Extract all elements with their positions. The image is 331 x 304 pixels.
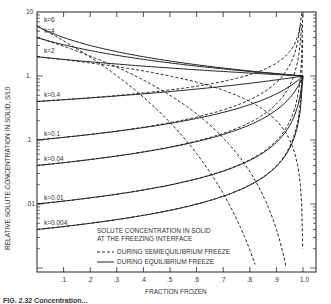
equilibrium-curve bbox=[37, 76, 303, 102]
chart: .1.2.3.4.5.6.7.8.91.0101..1.01 k=6k=4k=2… bbox=[0, 0, 331, 304]
x-tick-label: .3 bbox=[114, 276, 120, 283]
equilibrium-curve bbox=[37, 76, 303, 166]
svg-text:DURING SEMIEQUILIBRIUM FREEZE: DURING SEMIEQUILIBRIUM FREEZE bbox=[117, 248, 231, 256]
legend: SOLUTE CONCENTRATION IN SOLID AT THE FRE… bbox=[97, 227, 231, 266]
x-tick-label: .6 bbox=[194, 276, 200, 283]
series-label: k=0.01 bbox=[44, 194, 64, 201]
x-tick-label: .2 bbox=[87, 276, 93, 283]
x-tick-label: .5 bbox=[167, 276, 173, 283]
y-tick-label: .1 bbox=[26, 136, 32, 143]
x-tick-label: .8 bbox=[247, 276, 253, 283]
series-labels: k=6k=4k=2k=0.4k=0.1k=0.04k=0.01k=0.004 bbox=[44, 16, 68, 226]
x-tick-label: .7 bbox=[220, 276, 226, 283]
x-axis-label: FRACTION FROZEN bbox=[145, 288, 207, 295]
equilibrium-curve bbox=[37, 38, 303, 77]
series-label: k=0.4 bbox=[44, 91, 60, 98]
series-label: k=0.004 bbox=[44, 219, 68, 226]
series-label: k=0.1 bbox=[44, 130, 60, 137]
x-tick-label: .9 bbox=[273, 276, 279, 283]
semiequilibrium-curve bbox=[37, 38, 303, 229]
series-label: k=0.04 bbox=[44, 155, 64, 162]
x-tick-label: .1 bbox=[61, 276, 67, 283]
y-axis-label: RELATIVE SOLUTE CONCENTRATION IN SOLID, … bbox=[4, 86, 11, 250]
series-label: k=6 bbox=[44, 16, 55, 23]
semiequilibrium-curve bbox=[37, 24, 302, 165]
y-tick-label: 1. bbox=[26, 72, 32, 79]
svg-text:DURING EQUILIBRIUM FREEZE: DURING EQUILIBRIUM FREEZE bbox=[117, 258, 215, 266]
semiequilibrium-curve bbox=[37, 14, 303, 204]
x-tick-label: .4 bbox=[140, 276, 146, 283]
semiequilibrium-curve bbox=[37, 13, 302, 101]
y-tick-label: 10 bbox=[26, 8, 34, 15]
x-tick-label: 1.0 bbox=[300, 276, 309, 283]
caption: FIG. 2.32 Concentration... bbox=[3, 297, 87, 304]
series-label: k=2 bbox=[44, 47, 55, 54]
svg-text:AT THE FREEZING INTERFACE: AT THE FREEZING INTERFACE bbox=[97, 235, 193, 242]
y-tick-label: .01 bbox=[26, 200, 35, 207]
equilibrium-curve bbox=[37, 76, 303, 140]
series-label: k=4 bbox=[44, 27, 55, 34]
svg-text:SOLUTE CONCENTRATION IN SOLID: SOLUTE CONCENTRATION IN SOLID bbox=[97, 227, 211, 234]
